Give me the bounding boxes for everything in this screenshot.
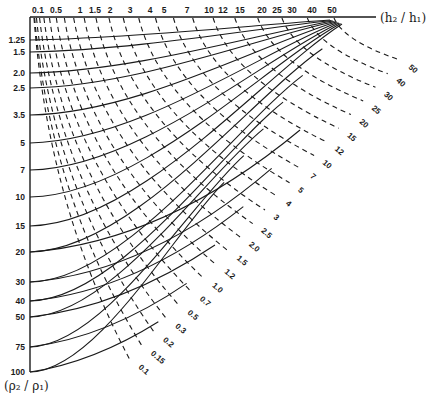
dashed-curve-label: 25 xyxy=(370,104,383,117)
dashed-curve-label: 2.5 xyxy=(259,226,274,240)
y-tick-label: 3.5 xyxy=(13,110,25,120)
solid-curve-extension xyxy=(30,168,272,282)
y-axis-title: (ρ₂ / ρ₁) xyxy=(4,379,49,393)
x-tick-label: 50 xyxy=(327,5,337,15)
curve-layer xyxy=(30,18,400,372)
x-tick-label: 7 xyxy=(185,5,190,15)
solid-curve-rho-50 xyxy=(30,129,263,317)
x-tick-label: 15 xyxy=(235,5,245,15)
dashed-curve-label: 4 xyxy=(284,199,294,209)
x-tick-label: 1 xyxy=(78,5,83,15)
dashed-curve-label: 12 xyxy=(333,144,346,157)
solid-curve-rho-1.5 xyxy=(30,21,332,53)
dashed-curve-label: 30 xyxy=(382,90,395,103)
dashed-curve-label: 0.7 xyxy=(198,294,213,308)
y-tick-label: 5 xyxy=(20,138,25,148)
dashed-curve-label: 10 xyxy=(321,158,334,171)
x-tick-label: 0.5 xyxy=(50,5,62,15)
dashed-curve-label: 15 xyxy=(345,131,358,144)
x-tick-label: 20 xyxy=(257,5,267,15)
dashed-curve-label: 1.2 xyxy=(223,267,238,281)
y-tick-label: 15 xyxy=(16,221,26,231)
x-axis-tick-labels: 0.10.511.5234571012152025304050 xyxy=(32,5,337,15)
solid-curve-rho-75 xyxy=(30,156,244,347)
dashed-curve-label: 7 xyxy=(309,172,319,182)
x-tick-label: 0.1 xyxy=(32,5,44,15)
y-tick-label: 20 xyxy=(16,247,26,257)
dashed-curve-label: 3 xyxy=(272,213,282,223)
dashed-curve-label: 40 xyxy=(394,76,407,89)
dashed-curve-0.2 xyxy=(36,18,154,333)
dashed-curve-40 xyxy=(307,18,387,74)
axes-layer xyxy=(30,17,376,372)
nomogram-chart: 0.10.511.5234571012152025304050 1.251.52… xyxy=(0,0,444,401)
dashed-curve-label: 2.0 xyxy=(247,240,262,254)
solid-curve-rho-15 xyxy=(30,24,342,226)
dashed-curve-label: 20 xyxy=(358,117,371,130)
dashed-curve-15 xyxy=(213,18,339,128)
x-tick-label: 10 xyxy=(204,5,214,15)
y-tick-label: 100 xyxy=(11,367,25,377)
dashed-curve-label: 0.15 xyxy=(149,349,167,366)
x-tick-label: 40 xyxy=(307,5,317,15)
solid-curve-rho-3.5 xyxy=(30,22,336,115)
y-tick-label: 2.5 xyxy=(13,83,25,93)
x-tick-label: 1.5 xyxy=(89,5,101,15)
x-tick-label: 25 xyxy=(272,5,282,15)
x-tick-label: 2 xyxy=(108,5,113,15)
y-axis-tick-labels: 1.251.52.02.53.55710152030405075100 xyxy=(8,35,25,377)
y-tick-label: 75 xyxy=(16,342,26,352)
dashed-curve-label: 0.2 xyxy=(161,335,176,349)
solid-curve-rho-20 xyxy=(30,49,322,252)
x-tick-label: 30 xyxy=(287,5,297,15)
dashed-curve-label: 0.1 xyxy=(137,363,152,377)
y-tick-label: 2.0 xyxy=(13,68,25,78)
dashed-curve-label: 5 xyxy=(296,185,306,195)
solid-curve-extension xyxy=(30,322,158,372)
dashed-curve-label: 0.5 xyxy=(186,308,201,322)
x-tick-label: 5 xyxy=(162,5,167,15)
dashed-curve-label: 1.0 xyxy=(210,281,225,295)
y-tick-label: 1.5 xyxy=(13,47,25,57)
x-axis-title: (h₂ / h₁) xyxy=(380,11,426,25)
y-tick-label: 1.25 xyxy=(8,35,25,45)
dashed-curve-0.7 xyxy=(49,18,191,292)
dashed-curve-label: 0.3 xyxy=(174,322,189,336)
solid-curve-rho-5 xyxy=(30,23,338,144)
x-tick-label: 12 xyxy=(218,5,228,15)
y-tick-label: 10 xyxy=(16,192,26,202)
y-tick-label: 40 xyxy=(16,296,26,306)
y-tick-label: 30 xyxy=(16,277,26,287)
dashed-curve-0.15 xyxy=(35,18,143,346)
dashed-curve-label: 1.5 xyxy=(235,254,250,268)
dashed-curve-1.2 xyxy=(64,18,216,265)
x-tick-label: 4 xyxy=(148,5,153,15)
dashed-curve-5 xyxy=(139,18,290,183)
dashed-curve-label: 50 xyxy=(407,63,420,76)
x-tick-label: 3 xyxy=(128,5,133,15)
y-tick-label: 7 xyxy=(20,165,25,175)
y-tick-label: 50 xyxy=(16,312,26,322)
dashed-curve-labels: 0.10.150.20.30.50.71.01.21.52.02.5345710… xyxy=(137,63,420,377)
